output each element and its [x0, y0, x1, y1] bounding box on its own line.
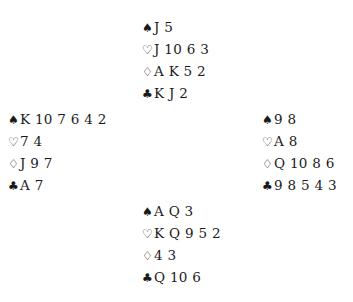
south-hearts: ♡K Q 9 5 2 — [142, 222, 221, 244]
heart-icon: ♡ — [142, 39, 154, 61]
east-clubs-cards: 9 8 5 4 3 — [274, 177, 337, 193]
west-clubs-cards: A 7 — [20, 177, 44, 193]
west-hearts-cards: 7 4 — [20, 133, 42, 149]
heart-icon: ♡ — [142, 223, 154, 245]
south-spades: ♠A Q 3 — [142, 200, 221, 222]
south-hearts-cards: K Q 9 5 2 — [154, 225, 221, 241]
spade-icon: ♠ — [142, 17, 154, 39]
north-hand: ♠J 5 ♡J 10 6 3 ♢A K 5 2 ♣K J 2 — [142, 16, 209, 104]
east-diamonds: ♢Q 10 8 6 — [262, 152, 337, 174]
north-diamonds: ♢A K 5 2 — [142, 60, 209, 82]
club-icon: ♣ — [262, 175, 274, 197]
south-clubs-cards: Q 10 6 — [154, 269, 201, 285]
club-icon: ♣ — [142, 267, 154, 289]
diamond-icon: ♢ — [8, 153, 20, 175]
north-clubs-cards: K J 2 — [154, 85, 188, 101]
south-hand: ♠A Q 3 ♡K Q 9 5 2 ♢4 3 ♣Q 10 6 — [142, 200, 221, 288]
south-clubs: ♣Q 10 6 — [142, 266, 221, 288]
diamond-icon: ♢ — [142, 61, 154, 83]
spade-icon: ♠ — [262, 109, 274, 131]
heart-icon: ♡ — [8, 131, 20, 153]
west-hearts: ♡7 4 — [8, 130, 107, 152]
north-diamonds-cards: A K 5 2 — [154, 63, 206, 79]
north-hearts: ♡J 10 6 3 — [142, 38, 209, 60]
east-spades: ♠9 8 — [262, 108, 337, 130]
south-diamonds-cards: 4 3 — [154, 247, 176, 263]
diamond-icon: ♢ — [142, 245, 154, 267]
east-hearts-cards: A 8 — [274, 133, 298, 149]
east-hand: ♠9 8 ♡A 8 ♢Q 10 8 6 ♣9 8 5 4 3 — [262, 108, 337, 196]
north-spades-cards: J 5 — [154, 19, 173, 35]
diamond-icon: ♢ — [262, 153, 274, 175]
east-diamonds-cards: Q 10 8 6 — [274, 155, 335, 171]
south-spades-cards: A Q 3 — [154, 203, 194, 219]
spade-icon: ♠ — [8, 109, 20, 131]
north-hearts-cards: J 10 6 3 — [154, 41, 209, 57]
east-spades-cards: 9 8 — [274, 111, 296, 127]
spade-icon: ♠ — [142, 201, 154, 223]
west-spades: ♠K 10 7 6 4 2 — [8, 108, 107, 130]
west-hand: ♠K 10 7 6 4 2 ♡7 4 ♢J 9 7 ♣A 7 — [8, 108, 107, 196]
east-clubs: ♣9 8 5 4 3 — [262, 174, 337, 196]
east-hearts: ♡A 8 — [262, 130, 337, 152]
west-spades-cards: K 10 7 6 4 2 — [20, 111, 107, 127]
north-clubs: ♣K J 2 — [142, 82, 209, 104]
west-diamonds-cards: J 9 7 — [20, 155, 53, 171]
west-diamonds: ♢J 9 7 — [8, 152, 107, 174]
club-icon: ♣ — [142, 83, 154, 105]
north-spades: ♠J 5 — [142, 16, 209, 38]
south-diamonds: ♢4 3 — [142, 244, 221, 266]
club-icon: ♣ — [8, 175, 20, 197]
west-clubs: ♣A 7 — [8, 174, 107, 196]
heart-icon: ♡ — [262, 131, 274, 153]
